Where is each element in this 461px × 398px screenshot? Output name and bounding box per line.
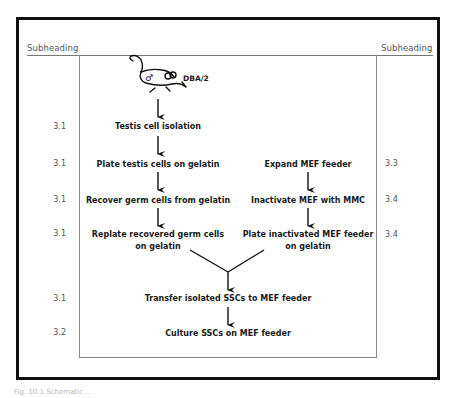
step-replate-germ-cells-line2: on gelatin: [135, 241, 181, 252]
step-number: 3.1: [36, 159, 66, 168]
step-number: 3.3: [385, 159, 398, 168]
step-number: 3.1: [36, 229, 66, 238]
step-number: 3.1: [36, 294, 66, 303]
step-expand-mef: Expand MEF feeder: [264, 159, 351, 170]
step-number: 3.4: [385, 195, 398, 204]
step-culture-sscs: Culture SSCs on MEF feeder: [165, 328, 291, 339]
step-plate-inactivated-mef-line2: on gelatin: [285, 241, 331, 252]
step-recover-germ-cells: Recover germ cells from gelatin: [86, 195, 230, 206]
step-replate-germ-cells-line1: Replate recovered germ cells: [92, 229, 224, 240]
step-number: 3.2: [36, 328, 66, 337]
connector-left-branch: [190, 250, 228, 272]
step-number: 3.4: [385, 230, 398, 239]
step-plate-inactivated-mef-line1: Plate inactivated MEF feeder: [243, 229, 374, 240]
step-transfer-sscs: Transfer isolated SSCs to MEF feeder: [145, 293, 312, 304]
figure-caption: Fig. 10.1 Schematic ...: [14, 388, 92, 396]
step-plate-testis-cells: Plate testis cells on gelatin: [97, 159, 220, 170]
connector-right-branch: [228, 250, 264, 272]
step-inactivate-mef: Inactivate MEF with MMC: [251, 195, 365, 206]
step-testis-cell-isolation: Testis cell isolation: [115, 121, 201, 132]
step-number: 3.1: [36, 195, 66, 204]
step-number: 3.1: [36, 122, 66, 131]
